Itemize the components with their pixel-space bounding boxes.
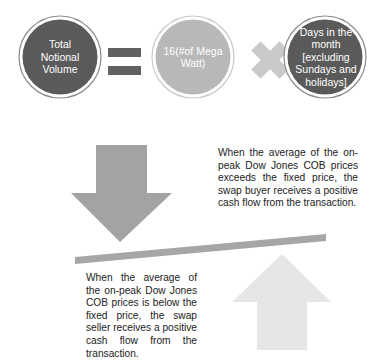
megawatt-label: 16(#of Mega Watt): [160, 27, 226, 87]
down-arrow-icon: [71, 145, 172, 242]
seesaw-beam: [75, 234, 326, 264]
total-notional-volume-label: Total Notional Volume: [30, 27, 90, 87]
seller-note: When the average of the on-peak Dow Jone…: [86, 272, 197, 360]
buyer-note: When the average of the on-peak Dow Jone…: [218, 147, 358, 210]
equals-icon: [108, 48, 141, 75]
megawatt-text: 16(#of Mega Watt): [160, 45, 226, 70]
up-arrow-icon: [232, 254, 331, 350]
days-in-month-label: Days in the month [excluding Sundays and…: [292, 23, 360, 91]
total-notional-volume-text: Total Notional Volume: [34, 38, 86, 76]
days-in-month-text: Days in the month [excluding Sundays and…: [292, 26, 360, 89]
